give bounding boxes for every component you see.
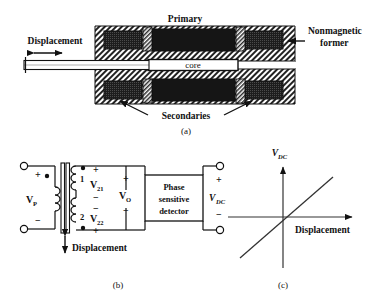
secondary-winding-lower-left <box>104 81 142 99</box>
transformer-core-bar-left <box>61 163 65 233</box>
primary-terminal-bottom <box>20 225 27 232</box>
secondary-winding-lower-right <box>245 81 283 99</box>
detector-label-line2: sensitive <box>159 194 190 204</box>
secondary-1-number: 1 <box>80 174 84 184</box>
v21-minus-sign: − <box>93 192 99 203</box>
secondary-2-number: 2 <box>80 212 84 222</box>
figure-svg: Primary <box>0 0 377 301</box>
vdc-minus-sign-b: − <box>216 209 222 220</box>
vdc-terminal-bottom <box>216 226 223 233</box>
part-b-circuit: V P + − Displacement 1 2 + V 21 − − V 22… <box>20 162 225 290</box>
secondary-winding-upper-right <box>245 31 283 49</box>
lvdt-figure: Primary <box>0 0 377 301</box>
y-axis-label-subscript: DC <box>277 153 288 160</box>
nonmagnetic-former-label-line2: former <box>320 38 349 48</box>
vdc-terminal-top <box>216 162 223 169</box>
vp-plus-sign: + <box>35 169 41 180</box>
vdc-plus-sign-b: + <box>216 174 222 185</box>
core-label: core <box>185 60 201 70</box>
vo-plus-sign: + <box>123 173 129 184</box>
primary-coil <box>55 187 60 211</box>
caption-b: (b) <box>113 280 124 290</box>
former-rib-lower-left <box>143 79 152 103</box>
vdc-symbol-b: V <box>209 193 216 203</box>
part-a-lvdt-cross-section: Primary <box>24 14 362 136</box>
transformer-core-bar-right <box>66 163 70 233</box>
secondary-coil-2 <box>71 198 76 222</box>
displacement-label-a: Displacement <box>28 36 84 46</box>
v21-subscript: 21 <box>97 185 104 192</box>
caption-a: (a) <box>181 126 191 136</box>
primary-winding-lower <box>152 79 235 101</box>
v21-plus-sign: + <box>93 164 99 175</box>
detector-label-line3: detector <box>159 206 189 216</box>
primary-winding-upper <box>152 29 235 51</box>
vo-minus-sign: − <box>123 205 129 216</box>
nonmagnetic-former-label-line1: Nonmagnetic <box>308 26 362 36</box>
secondary-winding-upper-left <box>104 31 142 49</box>
former-rib-upper-right <box>236 27 245 51</box>
former-rib-lower-right <box>236 79 245 103</box>
detector-label-line1: Phase <box>163 182 184 192</box>
primary-terminal-top <box>20 162 27 169</box>
vp-minus-sign: − <box>35 215 41 226</box>
secondary-coil-1 <box>71 166 76 190</box>
former-rib-upper-left <box>143 27 152 51</box>
windings-upper <box>104 29 283 51</box>
vp-subscript: P <box>33 200 37 207</box>
primary-polarity-dot <box>45 174 49 178</box>
primary-label: Primary <box>168 14 203 24</box>
vdc-subscript-b: DC <box>215 198 226 205</box>
secondaries-label: Secondaries <box>162 111 211 121</box>
part-c-transfer-characteristic: V DC Displacement (c) <box>228 148 352 290</box>
x-axis-label: Displacement <box>295 225 351 235</box>
displacement-label-b: Displacement <box>72 243 128 253</box>
vo-subscript: O <box>126 196 131 203</box>
v22-plus-sign: + <box>93 225 99 236</box>
caption-c: (c) <box>278 280 288 290</box>
windings-lower <box>104 79 283 101</box>
